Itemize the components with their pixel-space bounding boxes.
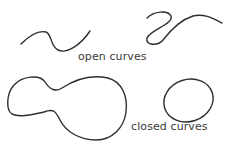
open-curve-1 xyxy=(21,31,90,51)
open-curve-2 xyxy=(147,12,222,44)
open-curves-label: open curves xyxy=(78,50,147,63)
closed-curves-label: closed curves xyxy=(131,120,208,133)
closed-blob xyxy=(8,77,127,140)
